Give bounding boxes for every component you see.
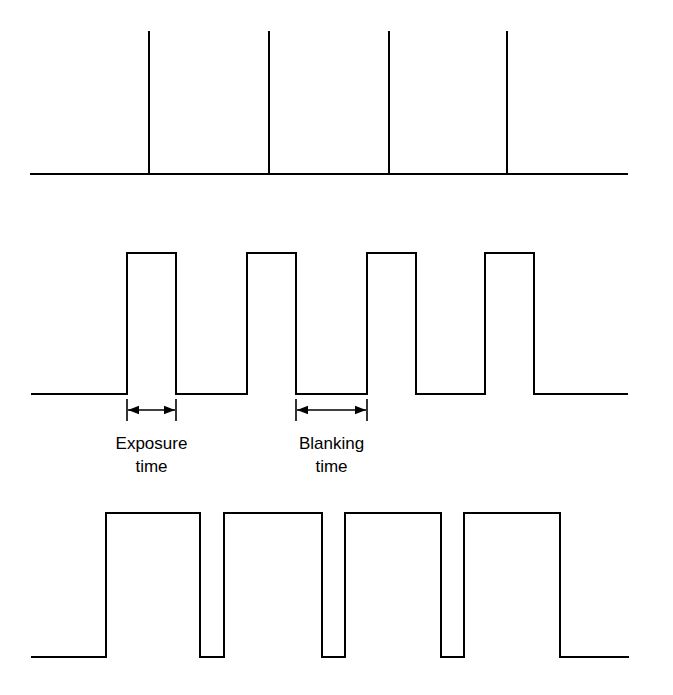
trace-long-exposure-signal — [32, 513, 628, 657]
blanking-dimension-arrow — [296, 399, 367, 421]
arrowhead-left-icon — [128, 406, 139, 414]
annotation-blanking-time: Blanking time — [296, 399, 367, 476]
blanking-label-line1: Blanking — [299, 434, 364, 453]
arrowhead-left-icon — [297, 406, 308, 414]
trace-exposure-signal — [32, 253, 627, 394]
timing-diagram-canvas: Exposure time Blanking time — [0, 0, 673, 695]
exposure-waveform — [32, 253, 627, 394]
blanking-label-line2: time — [315, 457, 347, 476]
annotation-exposure-time: Exposure time — [116, 399, 188, 476]
exposure-label-line1: Exposure — [116, 434, 188, 453]
trace-trigger-pulses — [31, 31, 627, 174]
arrowhead-right-icon — [164, 406, 175, 414]
exposure-dimension-arrow — [127, 399, 176, 421]
trigger-spike-group — [149, 31, 507, 174]
long-exposure-waveform — [32, 513, 628, 657]
arrowhead-right-icon — [355, 406, 366, 414]
exposure-label-line2: time — [135, 457, 167, 476]
timing-diagram-figure: Exposure time Blanking time — [0, 0, 673, 695]
